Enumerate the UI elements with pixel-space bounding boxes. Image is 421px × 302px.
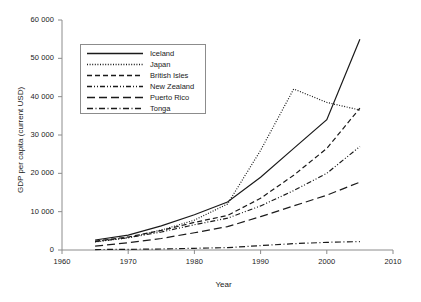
legend-swatch-new-zealand-icon xyxy=(86,81,144,92)
x-tick-label: 2010 xyxy=(373,257,413,266)
chart-container: 010 00020 00030 00040 00050 00060 000 19… xyxy=(0,0,421,302)
chart-legend: IcelandJapanBritish IslesNew ZealandPuer… xyxy=(80,44,206,114)
legend-swatch-puerto-rico-icon xyxy=(86,92,144,103)
x-tick-label: 1990 xyxy=(241,257,281,266)
y-tick-label: 10 000 xyxy=(0,207,54,216)
legend-swatch-tonga-icon xyxy=(86,103,144,114)
legend-item: New Zealand xyxy=(86,81,201,92)
legend-item: British Isles xyxy=(86,70,201,81)
y-tick-label: 60 000 xyxy=(0,15,54,24)
legend-item: Iceland xyxy=(86,48,201,59)
x-axis-title: Year xyxy=(216,280,232,289)
y-tick-label: 50 000 xyxy=(0,53,54,62)
legend-swatch-british-isles-icon xyxy=(86,70,144,81)
legend-label: Japan xyxy=(150,59,170,70)
legend-label: Tonga xyxy=(150,103,170,114)
legend-swatch-japan-icon xyxy=(86,59,144,70)
series-line-british-isles xyxy=(95,108,360,241)
legend-label: New Zealand xyxy=(150,81,194,92)
x-tick-label: 1970 xyxy=(108,257,148,266)
x-tick-label: 1960 xyxy=(42,257,82,266)
x-tick-label: 1980 xyxy=(174,257,214,266)
series-line-tonga xyxy=(95,242,360,250)
y-axis-title: GDP per capita (current USD) xyxy=(16,87,25,193)
y-tick-label: 0 xyxy=(0,245,54,254)
legend-swatch-iceland-icon xyxy=(86,48,144,59)
legend-label: Iceland xyxy=(150,48,174,59)
legend-item: Tonga xyxy=(86,103,201,114)
y-tick-label: 40 000 xyxy=(0,92,54,101)
legend-item: Japan xyxy=(86,59,201,70)
legend-item: Puerto Rico xyxy=(86,92,201,103)
x-tick-label: 2000 xyxy=(307,257,347,266)
y-tick-label: 20 000 xyxy=(0,168,54,177)
series-line-new-zealand xyxy=(95,147,360,242)
legend-label: Puerto Rico xyxy=(150,92,189,103)
y-tick-label: 30 000 xyxy=(0,130,54,139)
legend-label: British Isles xyxy=(150,70,188,81)
